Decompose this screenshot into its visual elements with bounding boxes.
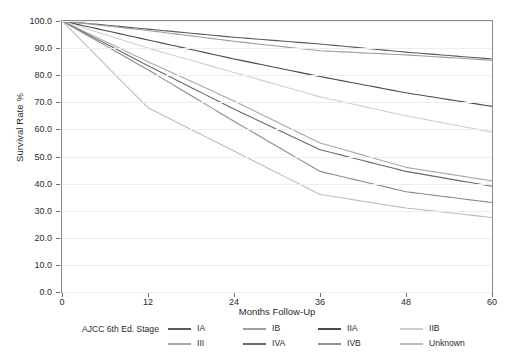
y-tick-mark <box>56 48 60 49</box>
gridline <box>62 211 492 212</box>
legend-swatch-iii <box>168 343 191 345</box>
gridline <box>62 184 492 185</box>
gridline <box>62 129 492 130</box>
legend-swatch-iia <box>318 328 341 330</box>
plot-area <box>61 20 493 293</box>
y-tick-mark <box>56 102 60 103</box>
curve-iia <box>62 21 492 106</box>
curve-ia <box>62 21 492 59</box>
y-tick-mark <box>56 238 60 239</box>
y-tick-label: 10.0 <box>6 260 52 270</box>
y-tick-label: 0.0 <box>6 287 52 297</box>
y-tick-mark <box>56 129 60 130</box>
y-tick-label: 70.0 <box>6 97 52 107</box>
y-tick-label: 50.0 <box>6 152 52 162</box>
x-tick-mark <box>62 293 63 297</box>
y-tick-label: 20.0 <box>6 233 52 243</box>
legend-label: IIB <box>429 323 440 333</box>
legend-swatch-iib <box>400 328 423 330</box>
x-tick-mark <box>320 293 321 297</box>
y-axis-ticks: 100.090.080.070.060.050.040.030.020.010.… <box>0 20 61 293</box>
legend-swatch-iva <box>243 343 266 345</box>
legend-swatch-unknown <box>400 343 423 345</box>
x-tick-mark <box>406 293 407 297</box>
gridline <box>62 238 492 239</box>
x-tick-mark <box>492 293 493 297</box>
legend-label: IIA <box>347 323 358 333</box>
x-axis-title: Months Follow-Up <box>61 306 493 317</box>
curve-iib <box>62 21 492 132</box>
legend-label: III <box>197 338 204 348</box>
legend-swatch-ia <box>168 328 191 330</box>
gridline <box>62 48 492 49</box>
y-tick-mark <box>56 21 60 22</box>
y-tick-label: 90.0 <box>6 43 52 53</box>
gridline <box>62 21 492 22</box>
y-tick-label: 60.0 <box>6 124 52 134</box>
y-tick-mark <box>56 184 60 185</box>
x-tick-mark <box>234 293 235 297</box>
y-tick-mark <box>56 292 60 293</box>
legend-label: IVA <box>272 338 285 348</box>
chart-legend: AJCC 6th Ed. Stage IAIBIIAIIBIIIIVAIVBUn… <box>0 322 513 356</box>
legend-swatch-ivb <box>318 343 341 345</box>
y-tick-mark <box>56 75 60 76</box>
x-tick-mark <box>148 293 149 297</box>
gridline <box>62 102 492 103</box>
legend-label: Unknown <box>429 338 465 348</box>
legend-swatch-ib <box>243 328 266 330</box>
legend-label: IB <box>272 323 280 333</box>
y-tick-label: 100.0 <box>6 16 52 26</box>
gridline <box>62 265 492 266</box>
legend-label: IA <box>197 323 205 333</box>
legend-label: IVB <box>347 338 361 348</box>
y-tick-label: 40.0 <box>6 179 52 189</box>
chart-figure: Survival Rate % 100.090.080.070.060.050.… <box>0 0 513 363</box>
gridline <box>62 157 492 158</box>
y-tick-label: 80.0 <box>6 70 52 80</box>
curve-unknown <box>62 21 492 217</box>
legend-title: AJCC 6th Ed. Stage <box>82 324 159 334</box>
gridline <box>62 75 492 76</box>
y-tick-mark <box>56 211 60 212</box>
y-tick-mark <box>56 265 60 266</box>
y-tick-label: 30.0 <box>6 206 52 216</box>
y-tick-mark <box>56 157 60 158</box>
